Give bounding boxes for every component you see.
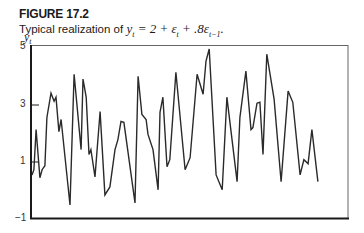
chart-plot [0, 0, 364, 233]
series-line-y_t [32, 49, 318, 205]
